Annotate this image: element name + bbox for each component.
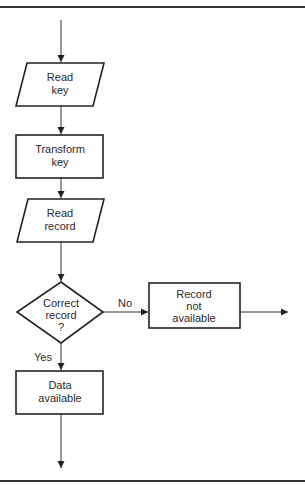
node-decision-line2: record xyxy=(45,309,76,321)
node-decision-line3: ? xyxy=(58,321,64,333)
node-read-record-line1: Read xyxy=(47,207,73,219)
node-transform-key-line2: key xyxy=(51,156,69,168)
node-transform-key-line1: Transform xyxy=(35,143,85,155)
node-read-record-line2: record xyxy=(44,220,75,232)
edge-label-no: No xyxy=(118,297,132,309)
node-rna-line3: available xyxy=(172,312,215,324)
node-decision-line1: Correct xyxy=(43,297,79,309)
node-transform-key: Transform key xyxy=(16,135,103,178)
flowchart-diagram: Read key Transform key Read record Corre… xyxy=(0,0,305,485)
node-read-key-line2: key xyxy=(51,84,69,96)
node-rna-line2: not xyxy=(186,300,201,312)
node-read-key-line1: Read xyxy=(47,71,73,83)
node-correct-record-decision: Correct record ? xyxy=(17,282,103,343)
node-record-not-available: Record not available xyxy=(149,283,240,328)
edge-label-yes: Yes xyxy=(34,351,52,363)
node-read-key: Read key xyxy=(16,63,104,106)
node-data-available-line2: available xyxy=(38,392,81,404)
node-rna-line1: Record xyxy=(176,288,211,300)
node-data-available: Data available xyxy=(16,371,103,414)
node-read-record: Read record xyxy=(17,199,104,242)
node-data-available-line1: Data xyxy=(48,379,72,391)
